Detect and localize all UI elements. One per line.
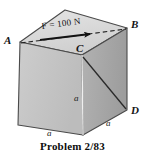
vertex-label-d: D: [131, 105, 139, 116]
dimension-label-bottom-right: a: [106, 119, 111, 128]
vertex-label-c: C: [76, 43, 83, 54]
vertex-label-b: B: [131, 19, 138, 30]
figure-screenshot: A B C D F = 100 N a a a Problem 2/83: [0, 0, 145, 159]
figure-caption: Problem 2/83: [0, 140, 145, 152]
cube-left-face: [18, 42, 83, 135]
dimension-label-vertical: a: [74, 94, 79, 103]
vertex-label-a: A: [4, 35, 11, 46]
dimension-label-bottom-left: a: [47, 129, 52, 138]
